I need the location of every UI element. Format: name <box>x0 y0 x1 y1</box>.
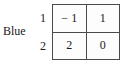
payoff-matrix-figure: Blue 1 2 − 1 1 2 0 <box>0 0 128 65</box>
payoff-matrix-grid: − 1 1 2 0 <box>52 4 120 60</box>
matrix-cell-r2c1: 2 <box>53 33 86 60</box>
matrix-row: 2 0 <box>53 32 119 60</box>
row-label-1: 1 <box>34 4 48 32</box>
matrix-cell-r1c2: 1 <box>86 5 120 32</box>
row-strategy-labels: 1 2 <box>34 4 48 60</box>
row-label-2: 2 <box>34 32 48 60</box>
matrix-row: − 1 1 <box>53 5 119 32</box>
player-label-blue: Blue <box>3 25 26 38</box>
matrix-cell-r2c2: 0 <box>86 33 120 60</box>
matrix-cell-r1c1: − 1 <box>53 5 86 32</box>
